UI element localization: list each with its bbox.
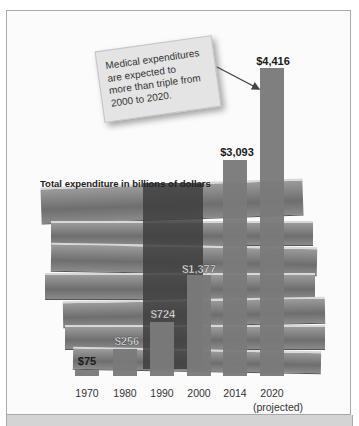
chart-panel: Total expenditure in billions of dollars… (6, 10, 351, 415)
footer-band (6, 415, 353, 426)
callout-arrow-icon (7, 11, 350, 414)
